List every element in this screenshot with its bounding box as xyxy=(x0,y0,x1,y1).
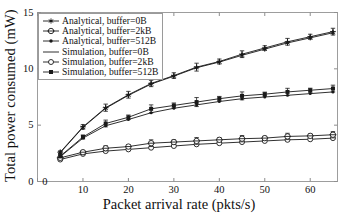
marker-plus-core xyxy=(127,94,129,96)
legend-dot xyxy=(49,40,52,43)
marker-square xyxy=(58,154,62,158)
y-tick-label: 10 xyxy=(16,63,34,74)
x-tick-label: 10 xyxy=(71,184,95,195)
x-tick-label: 20 xyxy=(116,184,140,195)
marker-plus-core xyxy=(195,66,197,68)
figure-container: Total power consumed (mW) Packet arrival… xyxy=(0,0,358,220)
x-tick-label: 60 xyxy=(298,184,322,195)
marker-square xyxy=(172,103,176,107)
legend-square xyxy=(49,70,53,74)
marker-plus-core xyxy=(104,107,106,109)
marker-square xyxy=(217,97,221,101)
marker-plus-core xyxy=(332,30,334,32)
marker-plus-core xyxy=(173,74,175,76)
marker-plus-core xyxy=(82,126,84,128)
marker-square xyxy=(81,135,85,139)
marker-plus-core xyxy=(59,151,61,153)
marker-square xyxy=(263,92,267,96)
marker-square xyxy=(286,90,290,94)
x-tick-label: 30 xyxy=(162,184,186,195)
marker-square xyxy=(195,100,199,104)
legend-item-label: Simulation, buffer=512B xyxy=(61,67,158,77)
marker-plus-core xyxy=(286,41,288,43)
marker-square xyxy=(308,88,312,92)
y-tick-label: 5 xyxy=(16,119,34,130)
y-axis-label: Total power consumed (mW) xyxy=(2,0,22,182)
marker-plus-core xyxy=(309,36,311,38)
x-axis-label: Packet arrival rate (pkts/s) xyxy=(0,196,358,213)
marker-square xyxy=(331,87,335,91)
marker-plus-core xyxy=(264,47,266,49)
marker-plus-core xyxy=(150,82,152,84)
x-tick-label: 40 xyxy=(207,184,231,195)
marker-square xyxy=(104,121,108,125)
y-tick-label: 0 xyxy=(16,176,34,187)
marker-square xyxy=(240,94,244,98)
legend-circle-open xyxy=(49,59,54,64)
legend-symbol-dot-line xyxy=(41,36,61,46)
legend-item: Simulation, buffer=512B xyxy=(41,67,158,77)
x-tick-label: 50 xyxy=(253,184,277,195)
legend-symbol-circle-open-line xyxy=(41,57,61,67)
marker-plus-core xyxy=(218,60,220,62)
marker-plus-core xyxy=(241,53,243,55)
y-tick-label: 15 xyxy=(16,7,34,18)
legend-symbol-line-plain xyxy=(41,47,61,57)
marker-square xyxy=(149,107,153,111)
marker-square xyxy=(126,115,130,119)
legend-asterisk-core xyxy=(50,20,52,22)
legend-symbol-circle-plus xyxy=(41,26,61,36)
legend-symbol-asterisk xyxy=(41,16,61,26)
legend-symbol-square-filled xyxy=(41,67,61,77)
legend-item-label: Analytical, buffer=512B xyxy=(61,36,156,46)
chart-legend: Analytical, buffer=0BAnalytical, buffer=… xyxy=(38,13,163,80)
